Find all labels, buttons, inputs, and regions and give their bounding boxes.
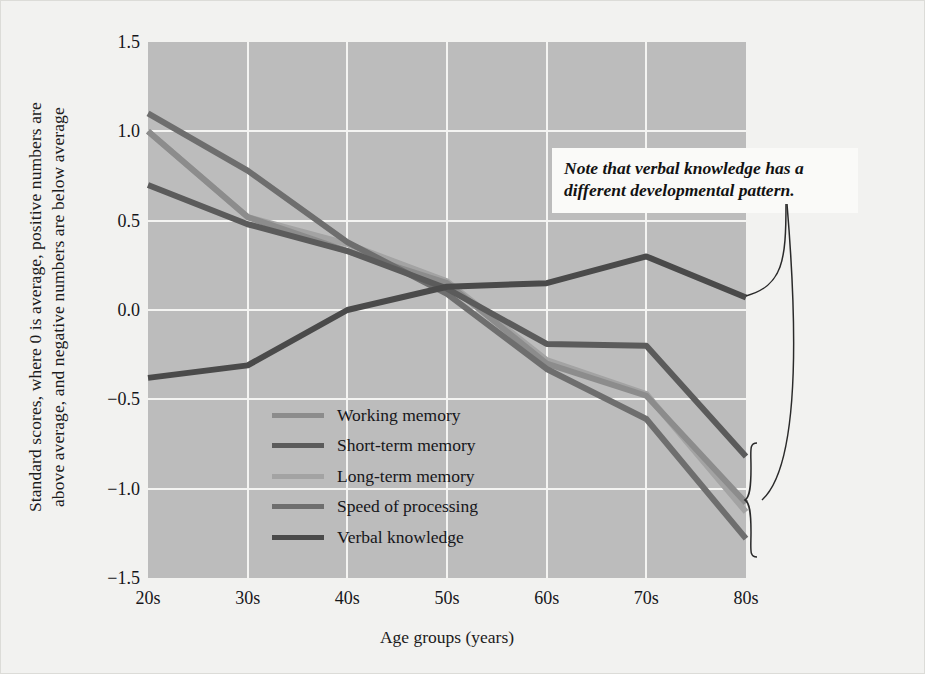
y-axis-tick-label: 0.0 (80, 300, 140, 321)
legend-swatch-icon (272, 474, 324, 479)
legend-label: Working memory (337, 405, 461, 426)
legend-item: Short-term memory (272, 431, 502, 462)
legend-swatch-icon (272, 535, 324, 540)
x-axis-tick-labels: 20s30s40s50s60s70s80s (148, 588, 746, 616)
legend-label: Short-term memory (337, 435, 476, 456)
y-axis-tick-label: 0.5 (80, 210, 140, 231)
legend: Working memoryShort-term memoryLong-term… (272, 400, 502, 553)
x-axis-tick-label: 50s (412, 588, 482, 609)
legend-swatch-icon (272, 504, 324, 509)
x-axis-tick-label: 70s (611, 588, 681, 609)
pointer-curve-to-verbal-line (746, 204, 786, 296)
x-axis-tick-label: 80s (711, 588, 781, 609)
y-axis-tick-label: −1.5 (80, 568, 140, 589)
y-axis-tick-label: 1.0 (80, 121, 140, 142)
annotation-note-box: Note that verbal knowledge has a differe… (552, 148, 858, 213)
legend-item: Long-term memory (272, 461, 502, 492)
y-axis-tick-label: 1.5 (80, 32, 140, 53)
y-axis-title-line-2: above average, and negative numbers are … (47, 27, 70, 587)
x-axis-tick-label: 60s (512, 588, 582, 609)
legend-label: Verbal knowledge (337, 527, 464, 548)
legend-label: Speed of processing (337, 496, 478, 517)
legend-item: Working memory (272, 400, 502, 431)
y-axis-title: Standard scores, where 0 is average, pos… (24, 27, 70, 587)
x-axis-tick-label: 20s (113, 588, 183, 609)
legend-label: Long-term memory (337, 466, 475, 487)
y-axis-tick-label: −1.0 (80, 478, 140, 499)
annotation-note-line-1: Note that verbal knowledge has a (564, 157, 846, 179)
legend-swatch-icon (272, 413, 324, 418)
annotation-note-line-2: different developmental pattern. (564, 179, 846, 201)
legend-item: Verbal knowledge (272, 522, 502, 553)
legend-item: Speed of processing (272, 492, 502, 523)
x-axis-tick-label: 40s (312, 588, 382, 609)
legend-swatch-icon (272, 443, 324, 448)
pointer-curve-to-brace (762, 204, 794, 500)
figure-container: Standard scores, where 0 is average, pos… (0, 0, 925, 674)
y-axis-tick-label: −0.5 (80, 389, 140, 410)
y-axis-tick-labels: 1.51.00.50.0−0.5−1.0−1.5 (78, 42, 140, 578)
x-axis-tick-label: 30s (213, 588, 283, 609)
x-axis-title: Age groups (years) (148, 627, 746, 648)
y-axis-title-line-1: Standard scores, where 0 is average, pos… (24, 27, 47, 587)
